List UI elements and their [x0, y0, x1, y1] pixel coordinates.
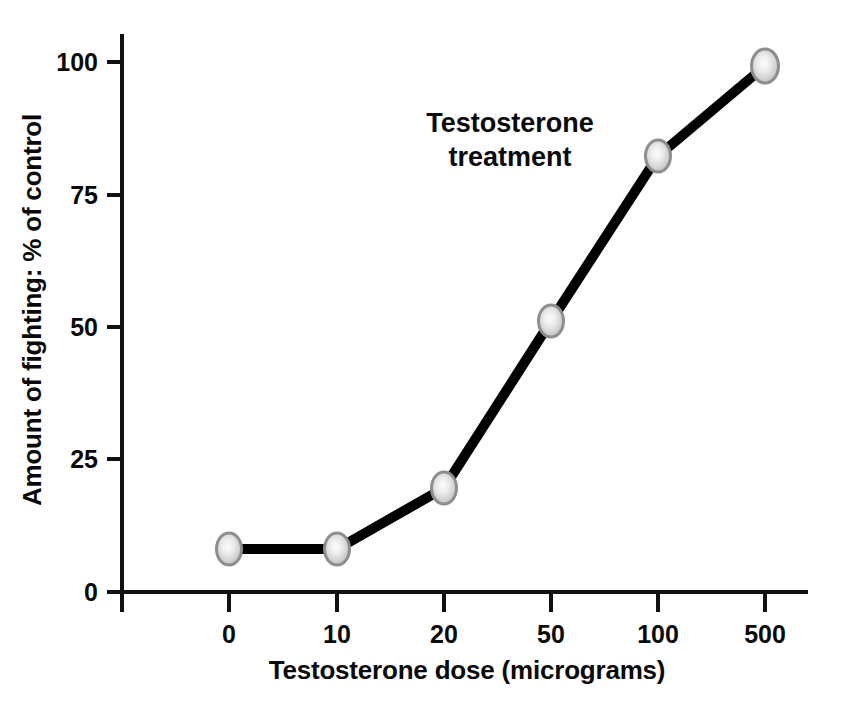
series-annotation-line-2: treatment — [350, 140, 670, 174]
series-annotation: Testosterone treatment — [350, 106, 670, 174]
data-point-500[interactable] — [752, 49, 779, 83]
data-point-50[interactable] — [539, 305, 564, 337]
x-tick-label-100: 100 — [637, 622, 679, 647]
x-tick-label-50: 50 — [537, 622, 565, 647]
y-axis-title: Amount of fighting: % of control — [12, 30, 52, 590]
x-tick-label-0: 0 — [222, 622, 236, 647]
x-axis-title: Testosterone dose (micrograms) — [122, 655, 812, 686]
data-point-0[interactable] — [217, 533, 242, 565]
x-tick-label-500: 500 — [744, 622, 786, 647]
x-tick-label-20: 20 — [430, 622, 458, 647]
y-axis-ticks — [107, 62, 122, 592]
x-tick-label-10: 10 — [323, 622, 351, 647]
x-axis-ticks — [122, 592, 765, 612]
data-point-20[interactable] — [432, 472, 457, 504]
chart-figure: 100 75 50 25 0 0 10 20 50 100 500 Amount… — [0, 0, 843, 710]
series-annotation-line-1: Testosterone — [350, 106, 670, 140]
data-point-10[interactable] — [325, 533, 350, 565]
